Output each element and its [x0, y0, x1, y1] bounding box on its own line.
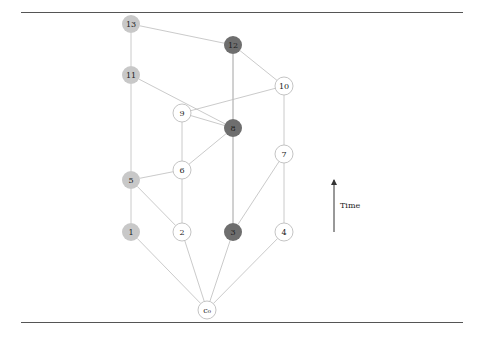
node-label: 13 — [126, 20, 136, 29]
nodes: c₀12345678910111213 — [122, 15, 293, 319]
edge-13-12 — [140, 26, 224, 43]
node-12: 12 — [224, 36, 242, 54]
node-label: 9 — [179, 109, 184, 118]
node-13: 13 — [122, 15, 140, 33]
node-label: 2 — [179, 228, 184, 237]
edge-c0-4 — [213, 238, 277, 303]
edge-6-5 — [140, 172, 173, 179]
edge-c0-3 — [210, 241, 230, 302]
node-9: 9 — [173, 104, 191, 122]
edge-c0-2 — [185, 241, 205, 302]
edge-3-7 — [238, 162, 279, 225]
node-label: 4 — [281, 228, 286, 237]
node-label: 8 — [230, 124, 235, 133]
node-label: 10 — [279, 82, 289, 91]
edge-c0-1 — [137, 238, 200, 303]
node-label: 7 — [281, 150, 286, 159]
node-label: 11 — [126, 71, 136, 80]
edge-8-6 — [189, 134, 226, 165]
node-label: 12 — [228, 41, 238, 50]
node-7: 7 — [275, 145, 293, 163]
node-2: 2 — [173, 223, 191, 241]
causal-graph: c₀12345678910111213 — [0, 0, 482, 338]
node-4: 4 — [275, 223, 293, 241]
node-c0: c₀ — [198, 301, 216, 319]
edge-10-12 — [240, 51, 277, 81]
node-label: 5 — [128, 176, 133, 185]
node-3: 3 — [224, 223, 242, 241]
node-label: 3 — [230, 228, 235, 237]
node-label: 1 — [128, 228, 133, 237]
edges — [131, 26, 284, 304]
time-axis-label: Time — [340, 201, 360, 210]
node-11: 11 — [122, 66, 140, 84]
node-label: c₀ — [203, 306, 211, 315]
edge-2-5 — [137, 186, 175, 225]
node-6: 6 — [173, 161, 191, 179]
node-8: 8 — [224, 119, 242, 137]
node-10: 10 — [275, 77, 293, 95]
node-label: 6 — [179, 166, 184, 175]
node-1: 1 — [122, 223, 140, 241]
node-5: 5 — [122, 171, 140, 189]
